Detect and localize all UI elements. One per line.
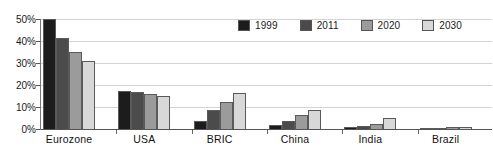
legend-item-1999: 1999	[238, 20, 278, 31]
bar	[220, 102, 233, 130]
bar	[131, 92, 144, 129]
y-axis-tick-label: 40%	[2, 36, 36, 47]
bar-group	[344, 19, 396, 129]
x-axis-labels: EurozoneUSABRICChinaIndiaBrazil	[41, 133, 492, 151]
y-axis-tick-mark	[36, 63, 40, 64]
bar-groups	[41, 19, 492, 129]
y-axis-tick-label: 10%	[2, 102, 36, 113]
bar-group	[118, 19, 170, 129]
x-axis-tick-label: China	[255, 133, 335, 145]
bar	[295, 115, 308, 129]
bar	[446, 127, 459, 129]
x-axis-tick-mark	[116, 130, 117, 134]
axis-baseline	[40, 129, 492, 130]
bar	[344, 127, 357, 129]
bar-group	[43, 19, 95, 129]
bar	[56, 38, 69, 129]
bar	[308, 110, 321, 129]
legend-label-1999: 1999	[255, 20, 278, 31]
bar	[207, 110, 220, 129]
legend-label-2030: 2030	[439, 20, 462, 31]
bar	[420, 128, 433, 129]
y-axis-tick-mark	[36, 19, 40, 20]
bar	[118, 91, 131, 129]
bar	[383, 118, 396, 129]
y-axis-labels: 50%40%30%20%10%0%	[0, 19, 36, 129]
x-axis-tick-label: USA	[104, 133, 184, 145]
legend-label-2011: 2011	[317, 20, 339, 31]
x-axis-tick-label: Eurozone	[29, 133, 109, 145]
bar	[269, 125, 282, 129]
legend-swatch-2030	[422, 20, 434, 31]
legend-swatch-2020	[361, 20, 373, 31]
bar	[433, 128, 446, 129]
bar	[194, 121, 207, 129]
bar-group	[269, 19, 321, 129]
chart-legend: 1999 2011 2020 2030	[238, 18, 462, 32]
legend-item-2020: 2020	[361, 20, 401, 31]
legend-item-2030: 2030	[422, 20, 462, 31]
bar	[43, 19, 56, 129]
y-axis-tick-label: 20%	[2, 80, 36, 91]
bar-group	[194, 19, 246, 129]
y-axis-tick-mark	[36, 41, 40, 42]
y-axis-tick-mark	[36, 129, 40, 130]
x-axis-tick-mark	[192, 130, 193, 134]
bar	[69, 52, 82, 129]
x-axis-tick-label: India	[330, 133, 410, 145]
y-axis-tick-label: 50%	[2, 14, 36, 25]
x-axis-tick-label: Brazil	[406, 133, 486, 145]
bar	[370, 124, 383, 130]
legend-swatch-2011	[300, 20, 312, 31]
x-axis-tick-label: BRIC	[180, 133, 260, 145]
y-axis-tick-label: 30%	[2, 58, 36, 69]
bar	[233, 93, 246, 129]
y-axis-tick-mark	[36, 107, 40, 108]
y-axis-tick-mark	[36, 85, 40, 86]
legend-item-2011: 2011	[300, 20, 339, 31]
bar	[459, 127, 472, 129]
bar-chart: 1999 2011 2020 2030 50%40%30%20%10%0% Eu…	[0, 0, 493, 164]
x-axis-tick-mark	[418, 130, 419, 134]
bar	[357, 126, 370, 129]
bar	[144, 94, 157, 129]
bar	[282, 121, 295, 129]
x-axis-tick-mark	[267, 130, 268, 134]
bar	[82, 61, 95, 129]
legend-swatch-1999	[238, 20, 250, 31]
x-axis-tick-mark	[342, 130, 343, 134]
bar	[157, 96, 170, 129]
legend-label-2020: 2020	[378, 20, 401, 31]
bar-group	[420, 19, 472, 129]
